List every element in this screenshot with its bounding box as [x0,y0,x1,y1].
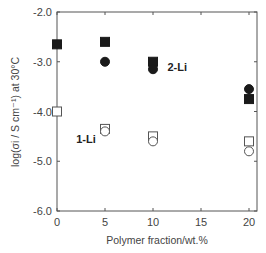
open-square-marker [245,137,254,146]
y-tick-label: -6.0 [33,205,52,217]
x-tick-label: 20 [243,216,255,228]
open-circle-marker [101,127,110,136]
scatter-chart: 05101520-2.0-3.0-4.0-5.0-6.0 2-Li1-Li Po… [0,0,266,253]
annotation-label: 2-Li [167,61,187,73]
open-circle-marker [149,137,158,146]
filled-circle-marker [245,85,254,94]
filled-square-marker [245,95,254,104]
open-square-marker [53,107,62,116]
filled-circle-marker [101,57,110,66]
x-tick-label: 5 [102,216,108,228]
filled-square-marker [53,40,62,49]
x-tick-label: 10 [147,216,159,228]
y-tick-label: -3.0 [33,56,52,68]
x-tick-label: 0 [54,216,60,228]
x-tick-label: 15 [195,216,207,228]
axes [57,12,257,211]
open-circle-marker [245,147,254,156]
y-tick-label: -2.0 [33,6,52,18]
filled-square-marker [101,37,110,46]
ticks: 05101520-2.0-3.0-4.0-5.0-6.0 [33,6,257,228]
y-tick-label: -4.0 [33,106,52,118]
filled-circle-marker [149,65,158,74]
annotations: 2-Li1-Li [76,61,187,145]
y-tick-label: -5.0 [33,155,52,167]
annotation-label: 1-Li [76,133,96,145]
y-axis-title: log(σi / S cm⁻¹) at 30°C [9,57,21,167]
x-axis-title: Polymer fraction/wt.% [106,234,208,246]
plot-frame [57,12,257,211]
